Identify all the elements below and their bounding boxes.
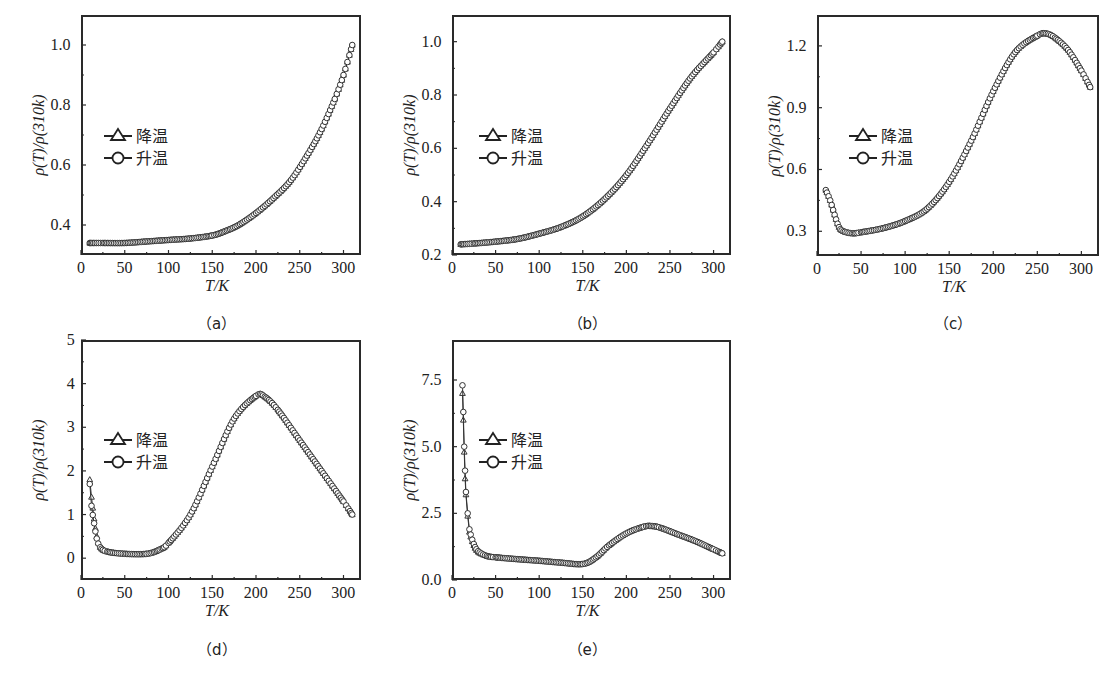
x-tick-label: 150 (937, 261, 961, 277)
x-tick-label: 150 (570, 585, 594, 601)
x-tick-label: 250 (658, 585, 682, 601)
x-tick-label: 100 (527, 585, 551, 601)
x-axis-label: T/K (942, 278, 966, 296)
x-tick-label: 250 (287, 585, 311, 601)
x-tick-label: 0 (813, 261, 821, 277)
plot-frame (817, 15, 1099, 256)
y-tick-label: 0.6 (421, 140, 441, 156)
y-tick-label: 0.6 (50, 157, 70, 173)
x-tick-label: 100 (527, 260, 551, 276)
plot-area (0, 0, 1117, 678)
series-heating (823, 30, 1093, 236)
x-tick-label: 50 (117, 585, 133, 601)
y-axis-label: ρ(T)/ρ(310k) (401, 75, 419, 195)
plot-frame (452, 15, 731, 255)
plot-area (0, 0, 1117, 678)
legend-item-heating: 升温 (848, 146, 913, 168)
x-tick-label: 100 (156, 260, 180, 276)
y-tick-label: 0.4 (421, 194, 441, 210)
plot-frame (452, 340, 731, 580)
series-cooling (87, 391, 355, 556)
circle-marker-icon (478, 149, 508, 165)
y-tick-label: 3 (67, 419, 75, 435)
triangle-marker-icon (478, 127, 508, 143)
legend-item-heating: 升温 (478, 146, 543, 168)
legend-item-cooling: 降温 (848, 124, 913, 146)
subplot-caption: （a） (197, 312, 236, 333)
y-tick-label: 0.0 (421, 572, 441, 588)
circle-marker-icon (103, 453, 133, 469)
y-tick-label: 1 (67, 507, 75, 523)
y-tick-label: 4 (67, 376, 75, 392)
y-tick-label: 0.9 (786, 100, 806, 116)
legend-label: 升温 (136, 449, 168, 473)
x-tick-label: 0 (448, 260, 456, 276)
subplot-caption: （b） (568, 312, 608, 333)
y-tick-label: 0.3 (786, 223, 806, 239)
y-tick-label: 0.4 (50, 217, 70, 233)
triangle-marker-icon (103, 431, 133, 447)
series-cooling (460, 390, 726, 566)
plot-area (0, 0, 1117, 678)
triangle-marker-icon (478, 431, 508, 447)
series-heating (87, 42, 355, 246)
legend-item-cooling: 降温 (103, 428, 168, 450)
legend-label: 升温 (136, 145, 168, 169)
subplot-a: 0501001502002503000.40.60.81.0ρ(T)/ρ(310… (0, 0, 1117, 678)
legend-label: 降温 (881, 123, 913, 147)
legend-label: 降温 (136, 427, 168, 451)
x-tick-label: 250 (287, 260, 311, 276)
subplot-c: 0501001502002503000.30.60.91.2ρ(T)/ρ(310… (0, 0, 1117, 678)
x-tick-label: 200 (981, 261, 1005, 277)
triangle-marker-icon (103, 127, 133, 143)
x-tick-label: 50 (487, 585, 503, 601)
y-tick-label: 2 (67, 463, 75, 479)
x-tick-label: 300 (331, 260, 355, 276)
x-tick-label: 0 (448, 585, 456, 601)
x-tick-label: 250 (658, 260, 682, 276)
legend-label: 升温 (511, 145, 543, 169)
series-heating (458, 39, 725, 247)
legend-item-heating: 升温 (103, 450, 168, 472)
x-tick-label: 150 (570, 260, 594, 276)
legend: 降温升温 (848, 124, 913, 168)
y-tick-label: 0.2 (421, 247, 441, 263)
x-axis-label: T/K (205, 602, 229, 620)
series-heating (87, 391, 355, 557)
circle-marker-icon (848, 149, 878, 165)
legend-label: 降温 (136, 123, 168, 147)
x-tick-label: 200 (244, 260, 268, 276)
x-tick-label: 100 (893, 261, 917, 277)
y-tick-label: 5 (67, 332, 75, 348)
x-tick-label: 100 (156, 585, 180, 601)
circle-marker-icon (103, 149, 133, 165)
y-tick-label: 1.0 (421, 34, 441, 50)
circle-marker-icon (478, 453, 508, 469)
x-tick-label: 200 (614, 585, 638, 601)
series-cooling (823, 30, 1093, 235)
x-tick-label: 150 (200, 585, 224, 601)
subplot-d: 050100150200250300012345ρ(T)/ρ(310k)T/K（… (0, 0, 1117, 678)
x-axis-label: T/K (205, 277, 229, 295)
x-tick-label: 0 (77, 260, 85, 276)
y-tick-label: 0 (67, 550, 75, 566)
triangle-marker-icon (848, 127, 878, 143)
subplot-caption: （e） (568, 638, 607, 659)
x-tick-label: 300 (701, 260, 725, 276)
x-tick-label: 50 (117, 260, 133, 276)
x-tick-label: 200 (614, 260, 638, 276)
x-tick-label: 300 (331, 585, 355, 601)
y-tick-label: 5.0 (421, 439, 441, 455)
plot-area (0, 0, 1117, 678)
legend-item-cooling: 降温 (478, 124, 543, 146)
x-tick-label: 0 (77, 585, 85, 601)
x-tick-label: 200 (244, 585, 268, 601)
legend-label: 升温 (881, 145, 913, 169)
y-tick-label: 0.8 (421, 87, 441, 103)
series-cooling (87, 42, 355, 245)
y-tick-label: 1.2 (786, 38, 806, 54)
legend-label: 降温 (511, 123, 543, 147)
subplot-b: 0501001502002503000.20.40.60.81.0ρ(T)/ρ(… (0, 0, 1117, 678)
y-tick-label: 7.5 (421, 372, 441, 388)
x-tick-label: 50 (853, 261, 869, 277)
